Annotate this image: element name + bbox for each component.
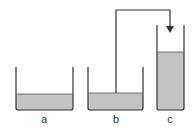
label-b: b [113, 113, 119, 125]
label-a: a [41, 113, 48, 125]
liquid-b [88, 93, 143, 110]
liquid-a [16, 94, 73, 110]
label-c: c [167, 113, 173, 125]
siphon-diagram: a b c [0, 0, 195, 127]
arrow-down-icon [166, 26, 174, 33]
container-c [157, 25, 184, 110]
liquid-c [157, 52, 184, 110]
container-a [16, 67, 73, 110]
